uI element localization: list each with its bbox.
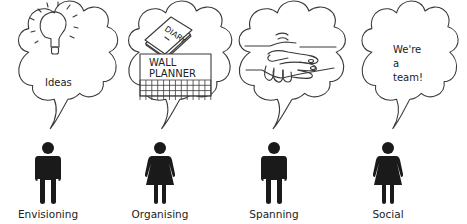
role-label-envisioning: Envisioning <box>18 208 78 220</box>
wall-label: WALL <box>149 57 177 68</box>
man-figure-icon <box>261 142 287 204</box>
planner-label: PLANNER <box>149 68 196 79</box>
role-label-spanning: Spanning <box>249 208 298 220</box>
bubble-text-line-2: a <box>393 58 399 69</box>
team-roles-diagram: Ideas Envisioning DIARY WALL PLANNER Org… <box>0 0 467 224</box>
wall-planner-icon: WALL PLANNER <box>140 54 211 100</box>
bubble-text-line-1: We're <box>393 44 421 55</box>
thought-bubble <box>239 1 345 129</box>
bubble-text-line-3: team! <box>393 72 423 83</box>
man-figure-icon <box>35 142 61 204</box>
bubble-text-ideas: Ideas <box>45 77 72 88</box>
role-social: We're a team! Social <box>362 1 458 220</box>
woman-figure-icon <box>373 142 403 204</box>
role-organising: DIARY WALL PLANNER Organising <box>129 1 232 220</box>
thought-bubble <box>362 1 458 129</box>
role-spanning: Spanning <box>239 1 345 220</box>
role-envisioning: Ideas Envisioning <box>18 1 118 220</box>
role-label-social: Social <box>372 208 403 220</box>
woman-figure-icon <box>145 142 175 204</box>
role-label-organising: Organising <box>132 208 189 220</box>
